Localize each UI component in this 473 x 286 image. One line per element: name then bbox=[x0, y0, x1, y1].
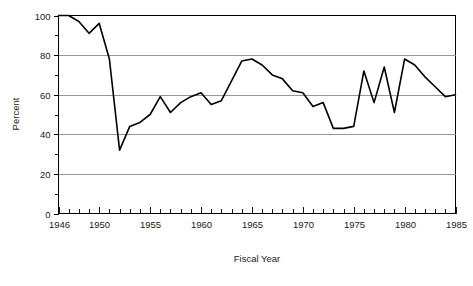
percent-series-line bbox=[59, 16, 456, 151]
x-tick-label: 1965 bbox=[242, 219, 263, 230]
gridlines-group bbox=[59, 56, 456, 175]
chart-canvas: 020406080100 194619501955196019651970197… bbox=[0, 0, 473, 286]
x-tick-label: 1955 bbox=[140, 219, 161, 230]
plot-area-border bbox=[59, 16, 456, 214]
x-tick-labels-group: 194619501955196019651970197519801985 bbox=[49, 219, 467, 230]
x-tick-label: 1985 bbox=[446, 219, 467, 230]
y-tick-label: 60 bbox=[40, 90, 51, 101]
x-tick-label: 1975 bbox=[344, 219, 365, 230]
x-tick-label: 1950 bbox=[89, 219, 110, 230]
y-tick-label: 100 bbox=[35, 11, 51, 22]
x-tick-label: 1980 bbox=[395, 219, 416, 230]
y-minor-ticks-group bbox=[55, 36, 59, 195]
y-axis-title: Percent bbox=[10, 97, 21, 130]
x-tick-label: 1960 bbox=[191, 219, 212, 230]
x-ticks-group bbox=[60, 207, 457, 214]
x-axis-title: Fiscal Year bbox=[234, 253, 280, 264]
bottom-caption-strip bbox=[0, 279, 473, 286]
chart-figure: 020406080100 194619501955196019651970197… bbox=[0, 0, 473, 286]
x-tick-label: 1946 bbox=[49, 219, 70, 230]
y-tick-label: 20 bbox=[40, 169, 51, 180]
y-tick-labels-group: 020406080100 bbox=[35, 11, 51, 220]
x-tick-label: 1970 bbox=[293, 219, 314, 230]
y-tick-label: 80 bbox=[40, 50, 51, 61]
y-tick-label: 40 bbox=[40, 129, 51, 140]
